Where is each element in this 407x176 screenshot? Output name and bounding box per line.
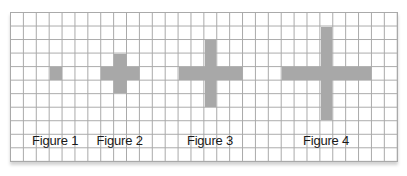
figure-label: Figure 1 <box>32 133 78 148</box>
plus-vertical-bar <box>205 40 217 107</box>
figure-label: Figure 3 <box>187 133 233 148</box>
figure-label: Figure 4 <box>303 133 349 148</box>
figure-label: Figure 2 <box>97 133 143 148</box>
plus-vertical-bar <box>50 67 62 80</box>
plus-vertical-bar <box>114 54 126 94</box>
plus-vertical-bar <box>321 27 333 121</box>
